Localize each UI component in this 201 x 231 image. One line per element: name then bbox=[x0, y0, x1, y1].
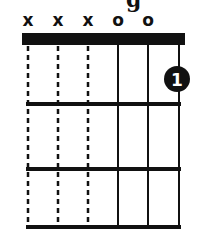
fret-line-2 bbox=[26, 167, 181, 171]
finger-number: 1 bbox=[171, 70, 183, 90]
chord-diagram: 1 bbox=[0, 0, 201, 231]
fret-line-3 bbox=[26, 225, 181, 229]
nut bbox=[22, 33, 185, 45]
fret-line-1 bbox=[26, 102, 181, 106]
